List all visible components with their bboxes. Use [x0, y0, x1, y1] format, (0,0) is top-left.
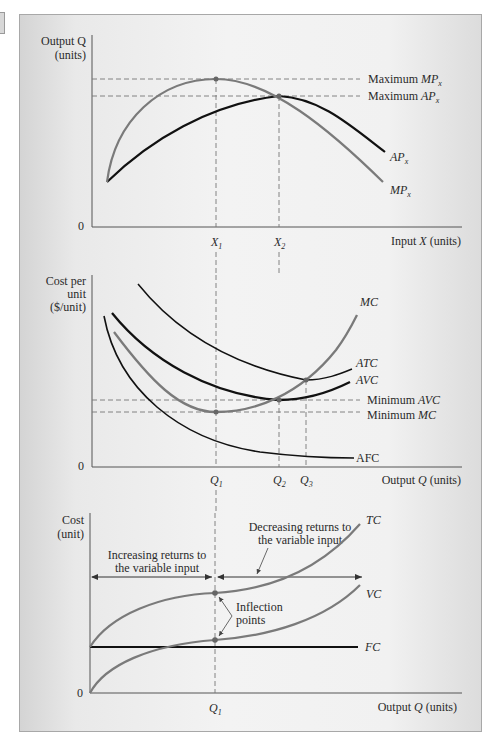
x-axis-label: Input X (units) — [391, 234, 461, 248]
tc-inflection-point — [212, 590, 218, 596]
mc-curve — [114, 315, 357, 412]
panel-product: Output Q (units) 0 Maximum MPx Maximum A… — [41, 34, 462, 275]
origin-label: 0 — [77, 686, 83, 700]
decreasing-returns-line2: the variable input — [258, 533, 343, 547]
mc-label: MC — [359, 295, 379, 309]
x-axis-label: Output Q (units) — [382, 473, 461, 487]
origin-label: 0 — [78, 219, 84, 233]
figure-svg: Output Q (units) 0 Maximum MPx Maximum A… — [0, 0, 494, 746]
decreasing-returns-pointer — [257, 548, 268, 574]
y-axis-label-line2: (units) — [55, 48, 86, 62]
x1-tick-label: X1 — [210, 235, 222, 251]
max-mp-label: Maximum MPx — [368, 72, 442, 88]
min-avc-point — [277, 398, 282, 403]
y-axis-label-line2: (unit) — [57, 527, 84, 541]
fc-label: FC — [364, 640, 381, 654]
min-atc-point — [304, 378, 309, 383]
ap-label: APx — [389, 150, 409, 166]
decreasing-returns-line1: Decreasing returns to — [249, 520, 352, 534]
q3-tick-label: Q3 — [300, 473, 313, 489]
increasing-returns-line2: the variable input — [115, 561, 200, 575]
max-ap-label: Maximum APx — [368, 89, 440, 105]
vc-curve — [90, 585, 360, 693]
mp-label: MPx — [389, 183, 411, 199]
q2-tick-label: Q2 — [273, 473, 286, 489]
y-axis-label-line1: Output Q — [41, 34, 86, 48]
y-axis-label-line1: Cost per — [46, 274, 86, 288]
x2-tick-label: X2 — [273, 235, 285, 251]
max-mp-point — [214, 77, 219, 82]
panel-total-cost: Cost (unit) 0 Increasing returns to the … — [57, 513, 462, 717]
y-axis-label-line3: ($/unit) — [50, 300, 86, 314]
avc-label: AVC — [355, 373, 379, 387]
vc-inflection-point — [212, 637, 218, 643]
tc-inflection-pointer — [219, 597, 232, 616]
vc-label: VC — [366, 587, 382, 601]
q1-tick-label: Q1 — [209, 701, 222, 717]
min-avc-label: Minimum AVC — [367, 393, 441, 407]
min-mc-label: Minimum MC — [367, 408, 437, 422]
ap-curve — [107, 96, 385, 182]
x-axis-label: Output Q (units) — [378, 700, 457, 714]
q1-tick-label: Q1 — [210, 473, 223, 489]
origin-label: 0 — [78, 459, 84, 473]
min-mc-point — [214, 410, 219, 415]
afc-label: AFC — [356, 451, 379, 465]
atc-label: ATC — [355, 356, 379, 370]
inflection-label-line2: points — [236, 613, 266, 627]
vc-inflection-pointer — [219, 616, 232, 636]
afc-curve — [104, 316, 354, 458]
increasing-returns-line1: Increasing returns to — [108, 548, 207, 562]
panel-unit-cost: Cost per unit ($/unit) 0 MC ATC AVC Mini… — [46, 274, 462, 513]
y-axis-label-line2: unit — [67, 287, 86, 301]
max-ap-point — [277, 94, 282, 99]
y-axis-label-line1: Cost — [62, 513, 85, 527]
inflection-label-line1: Inflection — [236, 600, 283, 614]
tc-label: TC — [366, 513, 382, 527]
mp-curve — [107, 79, 383, 182]
